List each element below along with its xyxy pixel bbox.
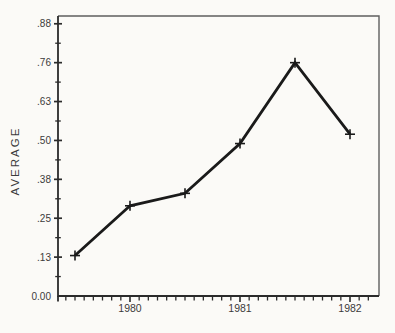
average-line-chart-figure: 0.00.13.25.38.50.63.76.88198019811982 AV… <box>0 0 395 333</box>
y-tick-label: .13 <box>37 252 51 263</box>
y-tick-label: 0.00 <box>32 291 52 302</box>
y-tick-label: .88 <box>37 18 51 29</box>
y-axis-title: AVERAGE <box>9 127 21 196</box>
chart-frame-axes <box>58 16 379 296</box>
x-tick-label: 1981 <box>228 302 252 314</box>
y-tick-label: .25 <box>37 213 51 224</box>
x-tick-label: 1982 <box>338 302 362 314</box>
y-tick-label: .76 <box>37 57 51 68</box>
y-tick-label: .63 <box>37 96 51 107</box>
chart-canvas: 0.00.13.25.38.50.63.76.88198019811982 <box>0 0 395 333</box>
x-tick-label: 1980 <box>118 302 142 314</box>
y-tick-label: .50 <box>37 135 51 146</box>
data-line <box>75 63 350 256</box>
chart-frame-top-right <box>58 16 379 296</box>
y-tick-label: .38 <box>37 174 51 185</box>
